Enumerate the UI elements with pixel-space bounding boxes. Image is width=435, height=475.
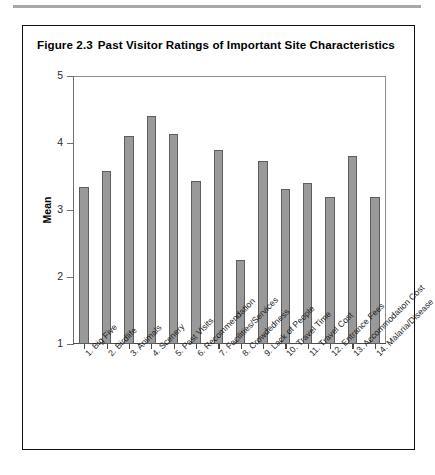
y-tick-label: 1 — [57, 337, 63, 349]
figure-container: Figure 2.3Past Visitor Ratings of Import… — [22, 25, 415, 450]
bar — [191, 181, 200, 344]
page-top-rule — [13, 5, 421, 8]
y-tick-label: 4 — [57, 136, 63, 148]
y-tick-1: 1 — [67, 344, 74, 345]
bar — [79, 187, 88, 344]
bar — [147, 116, 156, 344]
y-tick-label: 2 — [57, 270, 63, 282]
bar — [124, 136, 133, 344]
bar — [102, 171, 111, 344]
y-tick-label: 5 — [57, 69, 63, 81]
bar — [214, 150, 223, 344]
chart-plot: Mean 12345 1. Big Five2. Birdlife3. Anim… — [23, 26, 416, 451]
y-tick-label: 3 — [57, 203, 63, 215]
y-axis-title: Mean — [41, 180, 53, 240]
bars-layer — [73, 76, 386, 344]
bar — [169, 134, 178, 344]
